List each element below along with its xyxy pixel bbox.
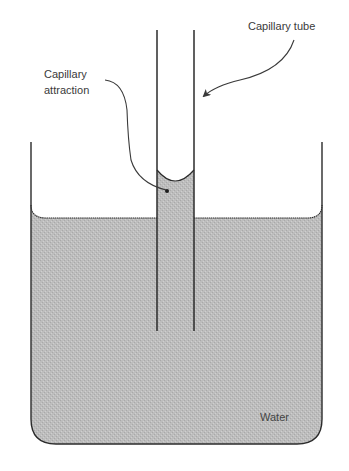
water-label: Water: [260, 411, 289, 423]
water-surface-right: [194, 205, 322, 218]
capillary-attraction-label-line2: attraction: [44, 84, 89, 96]
capillary-tube-label: Capillary tube: [248, 20, 315, 32]
water-surface-left: [31, 205, 157, 218]
capillary-attraction-pointer-dot-icon: [165, 189, 169, 193]
raised-water-column: [157, 170, 194, 331]
capillary-tube-arrow-icon: [204, 40, 294, 96]
capillary-attraction-label-line1: Capillary: [44, 68, 87, 80]
capillary-diagram: Capillary tube Capillary attraction Wate…: [0, 0, 349, 471]
capillary-attraction-label: Capillary attraction: [44, 68, 90, 96]
